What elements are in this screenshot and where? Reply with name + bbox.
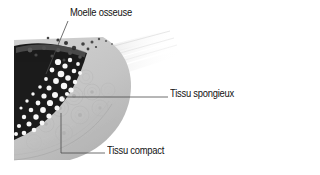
label-moelle-osseuse: Moelle osseuse [70,7,132,18]
label-tissu-spongieux: Tissu spongieux [170,88,234,99]
label-tissu-compact: Tissu compact [107,145,164,156]
